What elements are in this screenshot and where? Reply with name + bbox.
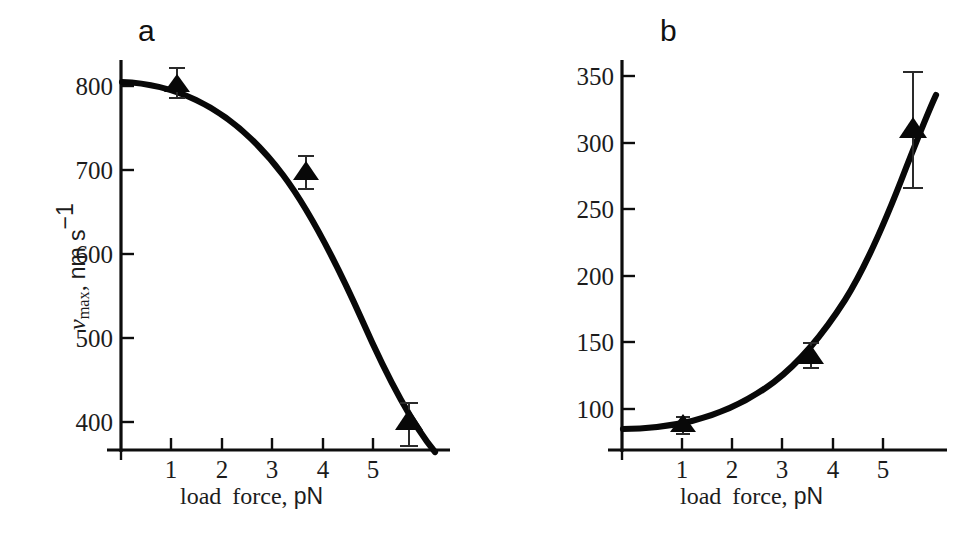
panel-a-y-unit: nm s: [64, 229, 90, 279]
panel-b-x-title-unit: pN: [794, 483, 823, 509]
panel-b-x-tick-4: 4: [827, 456, 840, 483]
figure-container: a 400 500 600 700 800: [0, 0, 965, 537]
panel-b: b 100 150 200 250 300 350: [482, 0, 965, 537]
panel-b-y-tick-250: 250: [577, 196, 615, 223]
panel-a-y-tick-700: 700: [76, 157, 114, 184]
panel-a: a 400 500 600 700 800: [0, 0, 482, 537]
panel-b-plot: 100 150 200 250 300 350 1 2 3 4 5: [482, 0, 965, 537]
panel-a-x-tick-1: 1: [165, 456, 178, 483]
panel-a-x-tick-5: 5: [367, 456, 380, 483]
panel-b-x-tick-5: 5: [877, 456, 890, 483]
panel-a-y-tick-800: 800: [76, 73, 114, 100]
panel-b-x-tick-3: 3: [776, 456, 789, 483]
panel-a-datapoint-3: [395, 409, 423, 430]
panel-a-x-tick-2: 2: [216, 456, 229, 483]
panel-a-x-tick-4: 4: [317, 456, 330, 483]
panel-a-y-unit-exponent: −1: [52, 203, 78, 229]
panel-a-fit-curve: [122, 82, 435, 452]
panel-a-x-axis-title: loadforce, pN: [180, 483, 323, 510]
panel-a-y-comma: ,: [64, 285, 90, 291]
panel-b-x-tick-2: 2: [726, 456, 739, 483]
panel-a-y-axis-title: vmax, nm s−1: [52, 203, 94, 330]
panel-a-x-title-unit: pN: [294, 483, 323, 509]
panel-a-x-title-force: force,: [232, 483, 287, 509]
panel-b-x-title-load: load: [680, 483, 721, 509]
panel-b-x-tick-1: 1: [676, 456, 689, 483]
panel-a-y-subscript: max: [74, 291, 93, 319]
panel-a-datapoint-2: [293, 161, 319, 180]
panel-a-y-symbol: v: [64, 319, 90, 330]
panel-b-y-tick-150: 150: [577, 329, 615, 356]
panel-b-x-axis-title: loadforce, pN: [680, 483, 823, 510]
panel-b-x-title-force: force,: [732, 483, 787, 509]
panel-a-y-tick-400: 400: [76, 409, 114, 436]
panel-a-y-ticks: [121, 86, 134, 422]
panel-b-y-tick-200: 200: [577, 263, 615, 290]
panel-b-y-tick-100: 100: [577, 396, 615, 423]
panel-b-x-ticks: [682, 438, 883, 450]
panel-a-x-ticks: [171, 438, 373, 450]
panel-b-y-tick-350: 350: [577, 63, 615, 90]
panel-b-y-tick-300: 300: [577, 130, 615, 157]
panel-a-x-title-load: load: [180, 483, 221, 509]
panel-a-x-tick-3: 3: [266, 456, 279, 483]
panel-b-y-ticks: [622, 76, 635, 409]
panel-a-datapoint-1: [164, 74, 190, 92]
panel-b-fit-curve: [623, 95, 936, 429]
